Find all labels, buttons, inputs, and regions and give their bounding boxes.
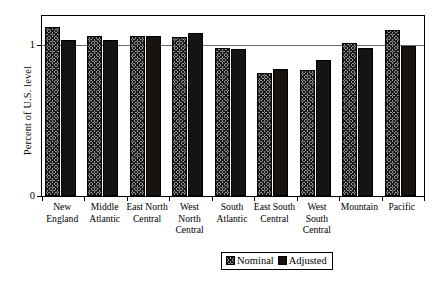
- bar-group: [42, 16, 84, 196]
- bar-nominal: [385, 30, 400, 196]
- bar-adjusted: [358, 48, 373, 196]
- x-axis-label: East NorthCentral: [126, 201, 168, 224]
- legend-label-adjusted: Adjusted: [289, 254, 327, 267]
- bar-group: [84, 16, 126, 196]
- bar-adjusted: [61, 40, 76, 196]
- x-axis-label: NewEngland: [41, 201, 83, 224]
- bar-adjusted: [231, 49, 246, 196]
- legend-entry-nominal: Nominal: [226, 254, 274, 267]
- x-axis-label: WestSouthCentral: [296, 201, 338, 236]
- x-axis-label: East SouthCentral: [253, 201, 295, 224]
- bar-nominal: [130, 36, 145, 196]
- x-axis-label: WestNorthCentral: [168, 201, 210, 236]
- x-axis-label: SouthAtlantic: [211, 201, 253, 224]
- bar-nominal: [87, 36, 102, 196]
- bar-nominal: [45, 27, 60, 196]
- bar-group: [297, 16, 339, 196]
- x-axis-labels: NewEnglandMiddleAtlanticEast NorthCentra…: [41, 201, 425, 245]
- y-tick-label-0: 0: [30, 191, 35, 202]
- bar-adjusted: [401, 46, 416, 196]
- x-axis-label: Mountain: [338, 201, 380, 213]
- y-axis-title: Percent of U.S. level: [22, 31, 33, 191]
- bar-adjusted: [273, 69, 288, 196]
- bar-adjusted: [103, 40, 118, 196]
- bar-nominal: [257, 73, 272, 196]
- bar-nominal: [215, 48, 230, 196]
- x-axis-label: MiddleAtlantic: [83, 201, 125, 224]
- bar-group: [127, 16, 169, 196]
- y-tick-label-1: 1: [30, 39, 35, 50]
- bar-adjusted: [146, 36, 161, 196]
- x-axis-label: Pacific: [381, 201, 423, 213]
- bar-nominal: [342, 43, 357, 196]
- bar-group: [169, 16, 211, 196]
- bar-nominal: [172, 37, 187, 196]
- bar-group: [382, 16, 424, 196]
- bar-group: [212, 16, 254, 196]
- legend-swatch-nominal-icon: [226, 256, 235, 265]
- bar-adjusted: [316, 60, 331, 196]
- bar-nominal: [300, 70, 315, 196]
- plot-inner: 01: [42, 16, 424, 196]
- bar-group: [339, 16, 381, 196]
- bar-group: [254, 16, 296, 196]
- chart-legend: Nominal Adjusted: [221, 252, 333, 270]
- bar-adjusted: [188, 33, 203, 196]
- legend-swatch-adjusted-icon: [278, 256, 287, 265]
- chart-figure: Percent of U.S. level 01 NewEnglandMiddl…: [0, 0, 443, 281]
- legend-label-nominal: Nominal: [237, 254, 274, 267]
- plot-area: 01: [41, 15, 425, 197]
- legend-entry-adjusted: Adjusted: [278, 254, 327, 267]
